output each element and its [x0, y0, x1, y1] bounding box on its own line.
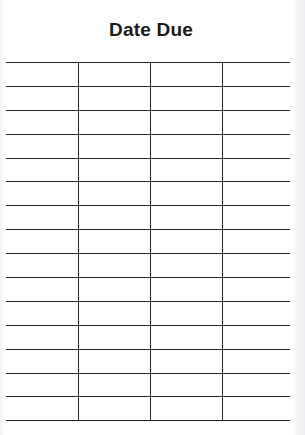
date-due-cell: [150, 182, 222, 206]
date-due-cell: [150, 206, 222, 230]
date-due-cell: [222, 254, 290, 278]
date-due-cell: [222, 230, 290, 254]
date-due-cell: [78, 230, 150, 254]
date-due-cell: [6, 86, 78, 110]
date-due-cell: [150, 134, 222, 158]
date-due-cell: [222, 397, 290, 421]
date-due-cell: [222, 158, 290, 182]
date-due-cell: [78, 134, 150, 158]
date-due-cell: [6, 158, 78, 182]
table-row: [6, 230, 290, 254]
table-row: [6, 254, 290, 278]
table-row: [6, 86, 290, 110]
date-due-cell: [6, 325, 78, 349]
table-row: [6, 397, 290, 421]
date-due-cell: [150, 373, 222, 397]
date-due-cell: [78, 110, 150, 134]
date-due-cell: [6, 278, 78, 302]
table-row: [6, 325, 290, 349]
table-row: [6, 349, 290, 373]
date-due-cell: [222, 325, 290, 349]
date-due-cell: [6, 301, 78, 325]
date-due-cell: [6, 134, 78, 158]
date-due-cell: [150, 397, 222, 421]
paper-edge-left: [0, 0, 4, 435]
date-due-cell: [6, 110, 78, 134]
table-row: [6, 134, 290, 158]
date-due-cell: [222, 134, 290, 158]
date-due-cell: [150, 278, 222, 302]
date-due-cell: [78, 182, 150, 206]
date-due-cell: [222, 373, 290, 397]
table-row: [6, 158, 290, 182]
date-due-cell: [222, 182, 290, 206]
date-due-grid: [6, 62, 290, 421]
date-due-cell: [78, 373, 150, 397]
table-row: [6, 110, 290, 134]
date-due-cell: [222, 86, 290, 110]
date-due-cell: [78, 206, 150, 230]
date-due-cell: [222, 349, 290, 373]
date-due-cell: [150, 110, 222, 134]
table-row: [6, 182, 290, 206]
date-due-cell: [6, 349, 78, 373]
table-row: [6, 278, 290, 302]
date-due-cell: [6, 373, 78, 397]
date-due-cell: [150, 349, 222, 373]
date-due-cell: [150, 254, 222, 278]
date-due-cell: [150, 63, 222, 87]
date-due-cell: [6, 254, 78, 278]
date-due-cell: [6, 182, 78, 206]
date-due-grid-body: [6, 63, 290, 421]
table-row: [6, 206, 290, 230]
date-due-cell: [222, 63, 290, 87]
date-due-cell: [6, 206, 78, 230]
date-due-cell: [78, 349, 150, 373]
table-row: [6, 301, 290, 325]
date-due-cell: [78, 86, 150, 110]
date-due-card: Date Due: [0, 0, 305, 435]
date-due-cell: [150, 158, 222, 182]
table-row: [6, 373, 290, 397]
date-due-cell: [6, 397, 78, 421]
paper-edge-right: [292, 0, 305, 435]
date-due-cell: [78, 301, 150, 325]
date-due-cell: [222, 206, 290, 230]
date-due-cell: [78, 63, 150, 87]
date-due-cell: [78, 397, 150, 421]
date-due-cell: [222, 110, 290, 134]
date-due-cell: [222, 278, 290, 302]
date-due-cell: [78, 325, 150, 349]
table-row: [6, 63, 290, 87]
date-due-cell: [78, 158, 150, 182]
date-due-cell: [6, 230, 78, 254]
date-due-cell: [78, 254, 150, 278]
card-title: Date Due: [0, 19, 302, 41]
date-due-cell: [150, 230, 222, 254]
date-due-cell: [150, 325, 222, 349]
date-due-cell: [150, 86, 222, 110]
date-due-cell: [222, 301, 290, 325]
date-due-cell: [6, 63, 78, 87]
date-due-cell: [78, 278, 150, 302]
date-due-cell: [150, 301, 222, 325]
